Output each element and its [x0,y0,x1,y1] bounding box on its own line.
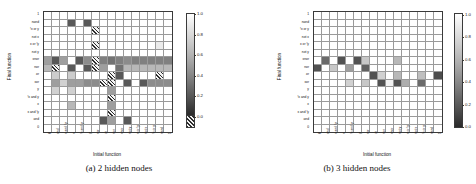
heatmap-cell [164,125,172,133]
heatmap-cell [378,42,386,50]
heatmap-cell [116,72,124,80]
heatmap-cell [140,80,148,88]
heatmap-cell [124,95,132,103]
y-tick-label: xnor [33,58,39,61]
heatmap-cell [52,57,60,65]
colorbar-tick-mark [462,60,465,61]
heatmap-cell [346,95,354,103]
heatmap-cell [434,65,442,73]
heatmap-cell [386,27,394,35]
y-tick-label: not x [32,36,39,39]
heatmap-cell [84,80,92,88]
heatmap-cell [68,117,76,125]
heatmap-cell [314,80,322,88]
heatmap-cell [60,50,68,58]
heatmap-cell [370,110,378,118]
heatmap-cell [100,87,108,95]
heatmap-cell [314,35,322,43]
heatmap-cell [410,65,418,73]
heatmap-cell [346,80,354,88]
heatmap-cell [362,95,370,103]
heatmap-cell [84,57,92,65]
heatmap-cell [402,102,410,110]
heatmap-cell [52,110,60,118]
heatmap-cell [338,42,346,50]
heatmap-cell [92,42,100,50]
heatmap-cell [370,95,378,103]
x-tick-label: 1 [439,132,442,134]
heatmap-cell [346,27,354,35]
heatmap-cell [156,95,164,103]
heatmap-cell [314,50,322,58]
heatmap-cell [410,87,418,95]
heatmap-cell [60,102,68,110]
colorbar-tick-label: 0.0 [465,125,471,129]
heatmap-cell [362,35,370,43]
heatmap-cell [84,125,92,133]
heatmap-cell [354,65,362,73]
heatmap-cell [346,57,354,65]
heatmap-cell [410,50,418,58]
heatmap-cell [60,57,68,65]
heatmap-cell [394,27,402,35]
heatmap-cell [410,35,418,43]
heatmap-cell [370,65,378,73]
x-tick-label: not x [415,127,418,134]
y-tick-label: and [33,118,39,121]
heatmap-cell [108,20,116,28]
heatmap-cell [84,42,92,50]
heatmap-cell [330,95,338,103]
x-tick-label: nand [431,127,434,134]
heatmap-cell [330,65,338,73]
y-tick-label: nand [302,21,309,24]
heatmap-cell [156,50,164,58]
x-tick-label: !x or y [423,125,426,134]
heatmap-cell [378,80,386,88]
heatmap-cell [434,57,442,65]
heatmap-cell [354,42,362,50]
heatmap-cell [100,42,108,50]
heatmap-cell [338,72,346,80]
heatmap-cell [418,35,426,43]
y-tick-labels-a: 1nand!x or ynot xx or !ynot yxnornororxo… [0,11,41,131]
colorbar-tick-label: 0.4 [465,80,471,84]
heatmap-cell [338,35,346,43]
heatmap-cell [370,27,378,35]
heatmap-cell [100,35,108,43]
heatmap-cell [346,65,354,73]
heatmap-cell [68,125,76,133]
x-tick-label: and [57,128,60,134]
heatmap-cell [426,57,434,65]
heatmap-cell [52,72,60,80]
heatmap-cell [330,27,338,35]
heatmap-cell [140,27,148,35]
x-tick-label: x and !y [65,122,68,134]
y-tick-label: 0 [307,126,309,129]
heatmap-cell [338,95,346,103]
heatmap-cell [68,50,76,58]
heatmap-cell [164,117,172,125]
heatmap-cell [52,87,60,95]
heatmap-cell [322,42,330,50]
heatmap-cell [362,57,370,65]
heatmap-cell [386,42,394,50]
heatmap-cell [346,35,354,43]
heatmap-cell [60,42,68,50]
heatmap-cell [426,117,434,125]
heatmap-cell [84,20,92,28]
heatmap-cell [140,12,148,20]
heatmap-cell [84,12,92,20]
heatmap-cell [156,57,164,65]
heatmap-cell [140,20,148,28]
heatmap-cell [386,57,394,65]
heatmap-cell [330,72,338,80]
heatmap-cell [362,87,370,95]
heatmap-cell [434,117,442,125]
heatmap-cell [426,20,434,28]
heatmap-cell [164,35,172,43]
heatmap-cell [434,95,442,103]
heatmap-cell [354,27,362,35]
colorbar-gradient-b [454,13,463,128]
heatmap-cell [402,50,410,58]
heatmap-cell [148,27,156,35]
